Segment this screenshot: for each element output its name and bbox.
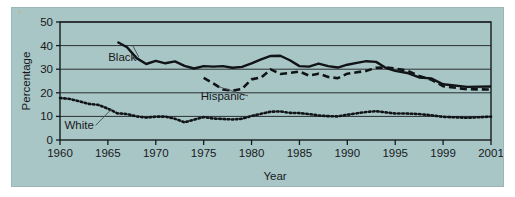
figure-panel: 01020304050 1960196519701975198019851990… bbox=[12, 8, 503, 186]
y-tick-label: 30 bbox=[40, 63, 53, 75]
x-axis-tick-labels: 1960196519701975198019851990199519992001 bbox=[47, 147, 503, 159]
x-tick-label: 1965 bbox=[95, 147, 121, 159]
y-tick-label: 0 bbox=[47, 134, 53, 146]
y-tick-label: 50 bbox=[40, 16, 53, 28]
x-tick-label: 1975 bbox=[191, 147, 217, 159]
series-line-black bbox=[117, 42, 491, 87]
x-tick-label: 2001 bbox=[478, 147, 503, 159]
series-label-hispanic: Hispanic bbox=[201, 90, 245, 102]
y-tick-label: 40 bbox=[40, 40, 53, 52]
y-axis-tick-labels: 01020304050 bbox=[40, 16, 53, 146]
chart-screenshot: 01020304050 1960196519701975198019851990… bbox=[0, 0, 515, 197]
series-line-white bbox=[60, 98, 491, 122]
line-chart: 01020304050 1960196519701975198019851990… bbox=[12, 8, 503, 186]
x-tick-label: 1960 bbox=[47, 147, 73, 159]
plot-frame bbox=[60, 22, 491, 140]
series-label-black: Black bbox=[108, 51, 136, 63]
y-tick-label: 20 bbox=[40, 87, 53, 99]
leader-line bbox=[96, 109, 112, 126]
gridlines bbox=[60, 22, 491, 116]
x-axis-title: Year bbox=[263, 170, 286, 182]
x-tick-label: 1995 bbox=[382, 147, 408, 159]
x-tick-label: 1999 bbox=[430, 147, 456, 159]
x-tick-label: 1985 bbox=[287, 147, 313, 159]
series-line-hispanic bbox=[204, 68, 491, 91]
x-tick-label: 1980 bbox=[239, 147, 265, 159]
x-axis-ticks bbox=[60, 140, 491, 145]
series-label-white: White bbox=[64, 119, 93, 131]
y-tick-label: 10 bbox=[40, 110, 53, 122]
x-tick-label: 1990 bbox=[335, 147, 361, 159]
y-axis-title: Percentage bbox=[20, 52, 32, 111]
x-tick-label: 1970 bbox=[143, 147, 169, 159]
